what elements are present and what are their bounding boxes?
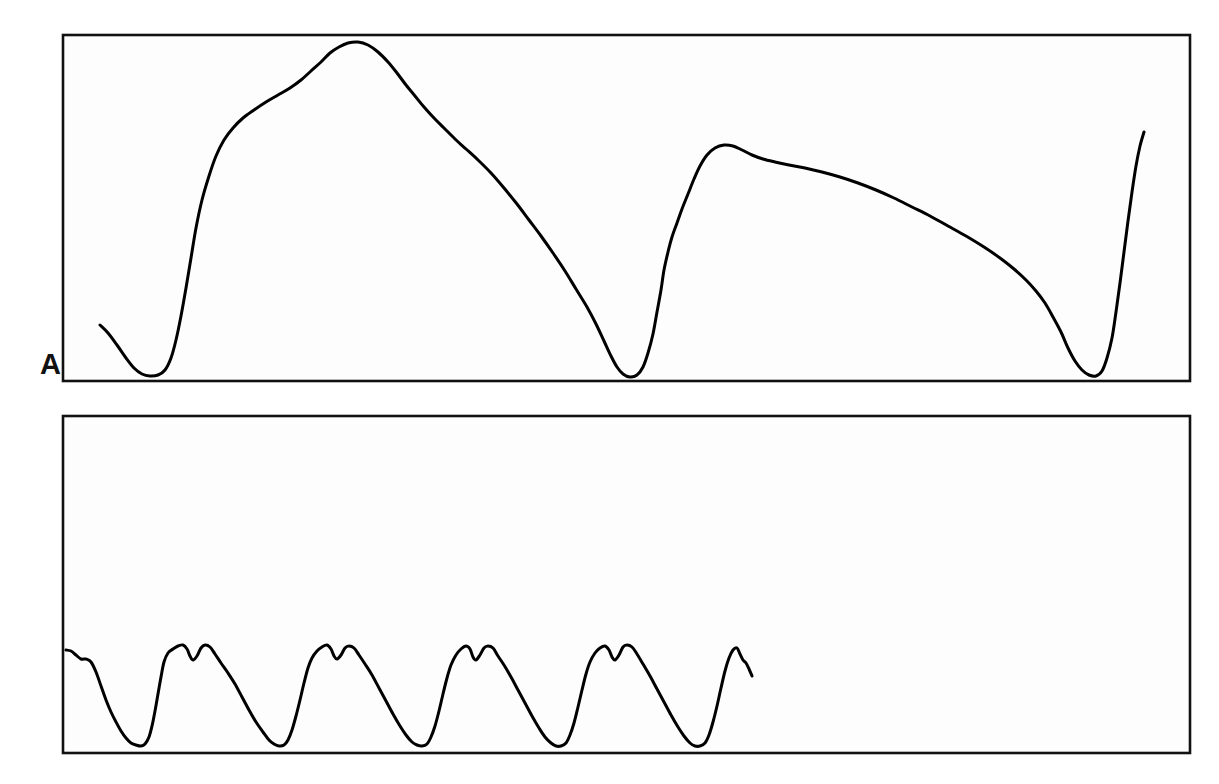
panel-b: B (0, 400, 1219, 784)
panel-a-label: A (40, 350, 61, 379)
panel-a-plot (0, 0, 1219, 400)
strip-chart-figure: A B (0, 0, 1219, 784)
panel-b-frame (63, 416, 1190, 753)
panel-a-frame (63, 35, 1190, 381)
panel-b-plot (0, 400, 1219, 784)
panel-a: A (0, 0, 1219, 400)
